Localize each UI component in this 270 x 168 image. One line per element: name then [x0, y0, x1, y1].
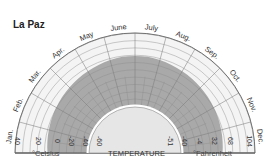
- celsius-tick: -60: [96, 136, 103, 146]
- fahrenheit-tick: -51: [167, 136, 174, 146]
- center-temperature-label: TEMPERATURE: [108, 149, 165, 158]
- celsius-axis-label: °Celsius: [32, 149, 60, 158]
- fahrenheit-tick: -4: [196, 138, 203, 144]
- fahrenheit-axis-label: °Fahrenheit: [193, 149, 232, 158]
- chart-title: La Paz: [13, 19, 45, 30]
- month-label: Jan.: [4, 129, 15, 144]
- month-label: June: [110, 22, 127, 33]
- celsius-tick: 20: [35, 137, 42, 145]
- month-label: Dec.: [255, 128, 266, 144]
- celsius-tick: 0: [54, 139, 61, 143]
- celsius-tick: -20: [68, 136, 75, 146]
- celsius-tick: 40: [14, 137, 21, 145]
- fahrenheit-tick: -40: [181, 136, 188, 146]
- fahrenheit-tick: 68: [227, 137, 234, 145]
- fahrenheit-tick: 32: [211, 137, 218, 145]
- fahrenheit-tick: 104: [246, 135, 253, 147]
- month-label: July: [144, 22, 159, 33]
- celsius-tick: -40: [82, 136, 89, 146]
